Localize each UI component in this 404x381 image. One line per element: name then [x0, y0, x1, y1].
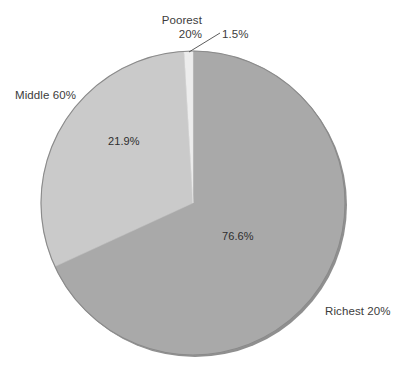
slice-label-poorest-line2: 20%	[140, 27, 202, 41]
slice-value-richest: 76.6%	[222, 230, 254, 243]
slice-label-poorest-line1: Poorest	[162, 14, 202, 26]
slice-value-middle: 21.9%	[108, 135, 140, 148]
pie-chart-graphic	[0, 0, 404, 381]
slice-label-middle: Middle 60%	[15, 88, 76, 102]
pie-chart-figure: Poorest 20% 1.5% Middle 60% Richest 20% …	[0, 0, 404, 381]
slice-label-richest: Richest 20%	[325, 304, 391, 318]
slice-value-poorest: 1.5%	[222, 27, 249, 41]
slice-label-poorest: Poorest 20%	[140, 13, 202, 41]
